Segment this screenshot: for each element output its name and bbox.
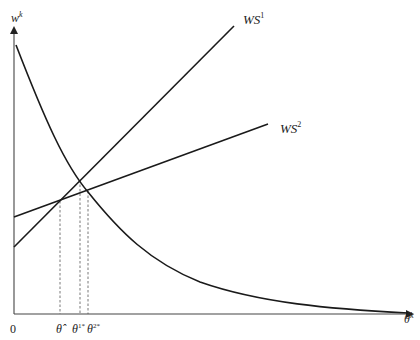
ws2-label: WS2 (280, 120, 301, 136)
ws1-label: WS1 (243, 11, 264, 27)
ws2-line (14, 124, 268, 217)
x-axis-label: θk (404, 311, 414, 326)
diagram: wk WS1 WS2 θk 0 θ̂ θ1* θ2* (0, 0, 420, 340)
y-axis-label: wk (11, 10, 23, 25)
theta-2-star-label: θ2* (87, 322, 100, 336)
theta-hat-label: θ̂ (56, 322, 67, 336)
ws1-line (14, 26, 234, 247)
theta-1-star-label: θ1* (72, 322, 85, 336)
origin-label: 0 (10, 322, 16, 336)
demand-curve (16, 45, 408, 313)
